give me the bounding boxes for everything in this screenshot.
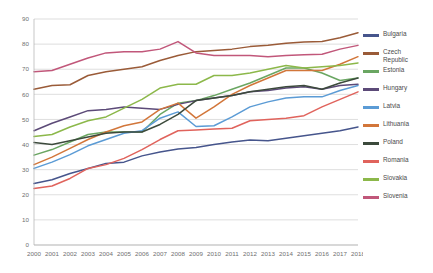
- series-line-latvia: [34, 86, 358, 169]
- x-tick-label: 2001: [45, 250, 59, 257]
- legend-swatch-icon: [363, 106, 379, 109]
- legend-item-label: Lithuania: [383, 120, 409, 128]
- legend-item-latvia[interactable]: Latvia: [363, 102, 433, 119]
- legend-item-label: Slovakia: [383, 174, 407, 182]
- legend-item-label: Bulgaria: [383, 30, 406, 38]
- series-line-bulgaria: [34, 127, 358, 183]
- x-tick-label: 2010: [207, 250, 221, 257]
- x-tick-label: 2009: [189, 250, 203, 257]
- legend-item-label: Hungary: [383, 84, 407, 92]
- x-tick-label: 2008: [171, 250, 185, 257]
- y-tick-label: 10: [22, 216, 29, 223]
- x-tick-label: 2017: [333, 250, 347, 257]
- y-tick-label: 0: [26, 241, 30, 248]
- legend-item-label: Latvia: [383, 102, 400, 110]
- legend-item-label: Slovenia: [383, 192, 408, 200]
- x-tick-label: 2012: [243, 250, 257, 257]
- y-tick-label: 50: [22, 116, 29, 123]
- legend-swatch-icon: [363, 178, 379, 181]
- x-tick-label: 2003: [81, 250, 95, 257]
- x-tick-label: 2013: [261, 250, 275, 257]
- legend-item-label: Poland: [383, 138, 403, 146]
- x-tick-label: 2004: [99, 250, 113, 257]
- x-tick-label: 2016: [315, 250, 329, 257]
- y-tick-label: 90: [22, 15, 29, 22]
- plot-area: 0102030405060708090 20002001200220032004…: [0, 0, 363, 273]
- legend-item-bulgaria[interactable]: Bulgaria: [363, 30, 433, 47]
- legend-swatch-icon: [363, 70, 379, 73]
- legend-item-poland[interactable]: Poland: [363, 138, 433, 155]
- legend-swatch-icon: [363, 88, 379, 91]
- legend-item-lithuania[interactable]: Lithuania: [363, 120, 433, 137]
- legend-item-label: Estonia: [383, 66, 404, 74]
- series-line-slovakia: [34, 63, 358, 137]
- legend-item-label: Romania: [383, 156, 409, 164]
- y-tick-label: 60: [22, 91, 29, 98]
- series-line-czech-republic: [34, 33, 358, 89]
- y-tick-label: 20: [22, 191, 29, 198]
- legend-swatch-icon: [363, 142, 379, 145]
- legend-item-romania[interactable]: Romania: [363, 156, 433, 173]
- chart-legend: BulgariaCzech RepublicEstoniaHungaryLatv…: [363, 30, 433, 210]
- legend-swatch-icon: [363, 196, 379, 199]
- legend-item-slovakia[interactable]: Slovakia: [363, 174, 433, 191]
- y-tick-label: 70: [22, 65, 29, 72]
- legend-swatch-icon: [363, 160, 379, 163]
- x-tick-label: 2011: [225, 250, 239, 257]
- legend-swatch-icon: [363, 34, 379, 37]
- legend-item-czech-republic[interactable]: Czech Republic: [363, 48, 433, 65]
- series-line-romania: [34, 92, 358, 189]
- legend-swatch-icon: [363, 124, 379, 127]
- x-axis-tick-labels: 2000200120022003200420052006200720082009…: [27, 250, 363, 257]
- y-tick-label: 30: [22, 166, 29, 173]
- legend-item-label: Czech Republic: [383, 48, 408, 64]
- y-axis-tick-labels: 0102030405060708090: [22, 15, 29, 248]
- x-tick-label: 2006: [135, 250, 149, 257]
- x-tick-label: 2018: [351, 250, 363, 257]
- y-tick-label: 80: [22, 40, 29, 47]
- x-tick-label: 2000: [27, 250, 41, 257]
- x-tick-label: 2005: [117, 250, 131, 257]
- legend-swatch-icon: [363, 52, 379, 55]
- y-tick-label: 40: [22, 141, 29, 148]
- legend-item-hungary[interactable]: Hungary: [363, 84, 433, 101]
- x-tick-label: 2002: [63, 250, 77, 257]
- data-series-group: [34, 33, 358, 189]
- series-line-hungary: [34, 84, 358, 130]
- line-chart: 0102030405060708090 20002001200220032004…: [0, 0, 433, 273]
- legend-item-estonia[interactable]: Estonia: [363, 66, 433, 83]
- x-tick-label: 2007: [153, 250, 167, 257]
- x-tick-label: 2015: [297, 250, 311, 257]
- x-tick-label: 2014: [279, 250, 293, 257]
- legend-item-slovenia[interactable]: Slovenia: [363, 192, 433, 209]
